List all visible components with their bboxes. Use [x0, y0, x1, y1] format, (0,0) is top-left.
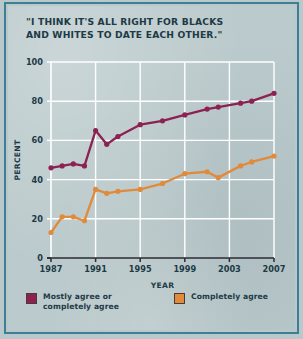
data-point-marker	[205, 106, 210, 111]
legend-label-line-1: Completely agree	[191, 292, 268, 301]
y-axis-tick-label: 60	[32, 135, 44, 145]
x-axis-tick-label: 1999	[173, 264, 196, 274]
y-axis-tick-label: 0	[37, 253, 43, 263]
data-point-marker	[271, 91, 276, 96]
chart-legend: Mostly agree or completely agree Complet…	[26, 292, 278, 322]
x-axis-tick-label: 2007	[263, 264, 286, 274]
legend-swatch-orange	[174, 293, 185, 304]
legend-item-mostly-agree: Mostly agree or completely agree	[26, 292, 119, 311]
data-point-marker	[238, 163, 243, 168]
legend-item-completely-agree: Completely agree	[174, 292, 268, 304]
data-point-marker	[82, 163, 87, 168]
x-axis-tick-label: 1995	[129, 264, 152, 274]
data-point-marker	[93, 128, 98, 133]
x-axis-tick-label: 1991	[84, 264, 107, 274]
data-point-marker	[238, 101, 243, 106]
data-point-marker	[48, 230, 53, 235]
data-point-marker	[182, 112, 187, 117]
legend-label-line-2: completely agree	[43, 302, 119, 311]
data-point-marker	[115, 134, 120, 139]
legend-label-line-1: Mostly agree or	[43, 292, 112, 301]
data-point-marker	[71, 214, 76, 219]
data-point-marker	[71, 161, 76, 166]
data-point-marker	[104, 191, 109, 196]
y-axis-tick-label: 20	[32, 214, 44, 224]
y-axis-title: PERCENT	[13, 139, 22, 181]
data-point-marker	[216, 104, 221, 109]
data-point-marker	[82, 218, 87, 223]
data-point-marker	[271, 153, 276, 158]
data-point-marker	[205, 169, 210, 174]
data-point-marker	[249, 159, 254, 164]
legend-label-completely-agree: Completely agree	[191, 292, 268, 302]
data-point-marker	[60, 214, 65, 219]
data-point-marker	[48, 165, 53, 170]
data-point-marker	[104, 142, 109, 147]
y-axis-tick-label: 80	[32, 96, 44, 106]
data-point-marker	[182, 171, 187, 176]
data-point-marker	[160, 118, 165, 123]
chart-figure: "I THINK IT'S ALL RIGHT FOR BLACKS AND W…	[0, 0, 303, 339]
x-axis-tick-label: 2003	[218, 264, 241, 274]
data-point-marker	[138, 122, 143, 127]
legend-swatch-purple	[26, 293, 37, 304]
y-axis-tick-label: 100	[26, 57, 43, 67]
legend-label-mostly-agree: Mostly agree or completely agree	[43, 292, 119, 311]
data-point-marker	[115, 189, 120, 194]
data-point-marker	[138, 187, 143, 192]
data-point-marker	[60, 163, 65, 168]
x-axis-title: YEAR	[150, 281, 175, 290]
data-point-marker	[93, 187, 98, 192]
line-chart-svg: 020406080100198719911995199920032007YEAR…	[0, 0, 303, 339]
data-point-marker	[249, 99, 254, 104]
x-axis-tick-label: 1987	[40, 264, 63, 274]
plot-area: 020406080100198719911995199920032007YEAR…	[0, 0, 303, 339]
data-point-marker	[216, 175, 221, 180]
y-axis-tick-label: 40	[32, 175, 44, 185]
data-point-marker	[160, 181, 165, 186]
